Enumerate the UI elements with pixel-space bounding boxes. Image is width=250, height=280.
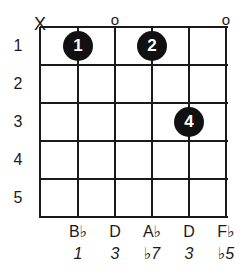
fret-line-5 [40, 216, 228, 218]
fret-line-1 [40, 64, 228, 66]
interval-label: 3 [100, 246, 130, 262]
string-1 [225, 27, 227, 218]
fret-number-1: 1 [11, 38, 25, 54]
finger-dot: 4 [174, 107, 204, 137]
muted-string-icon: X [32, 17, 48, 32]
fret-number-2: 2 [11, 76, 25, 92]
fret-line-3 [40, 140, 228, 142]
open-string-icon: o [107, 12, 123, 27]
note-label: D [100, 224, 130, 240]
fret-line-4 [40, 178, 228, 180]
fret-number-3: 3 [11, 114, 25, 130]
finger-dot: 1 [63, 31, 93, 61]
fret-line-2 [40, 102, 228, 104]
nut-line [40, 26, 228, 28]
note-label: B♭ [63, 224, 93, 240]
note-label: A♭ [137, 224, 167, 240]
string-6 [39, 27, 41, 218]
interval-label: ♭7 [137, 246, 167, 262]
interval-label: 1 [63, 246, 93, 262]
interval-label: ♭5 [211, 246, 241, 262]
note-label: D [174, 224, 204, 240]
fret-number-4: 4 [11, 152, 25, 168]
fret-number-5: 5 [11, 190, 25, 206]
open-string-icon: o [218, 12, 234, 27]
string-4 [114, 27, 116, 218]
finger-dot: 2 [137, 31, 167, 61]
interval-label: 3 [174, 246, 204, 262]
note-label: F♭ [211, 224, 241, 240]
chord-diagram: 1 2 3 4 5 X o o 1 2 4 B♭ D A♭ D F♭ 1 3 ♭… [0, 0, 250, 280]
